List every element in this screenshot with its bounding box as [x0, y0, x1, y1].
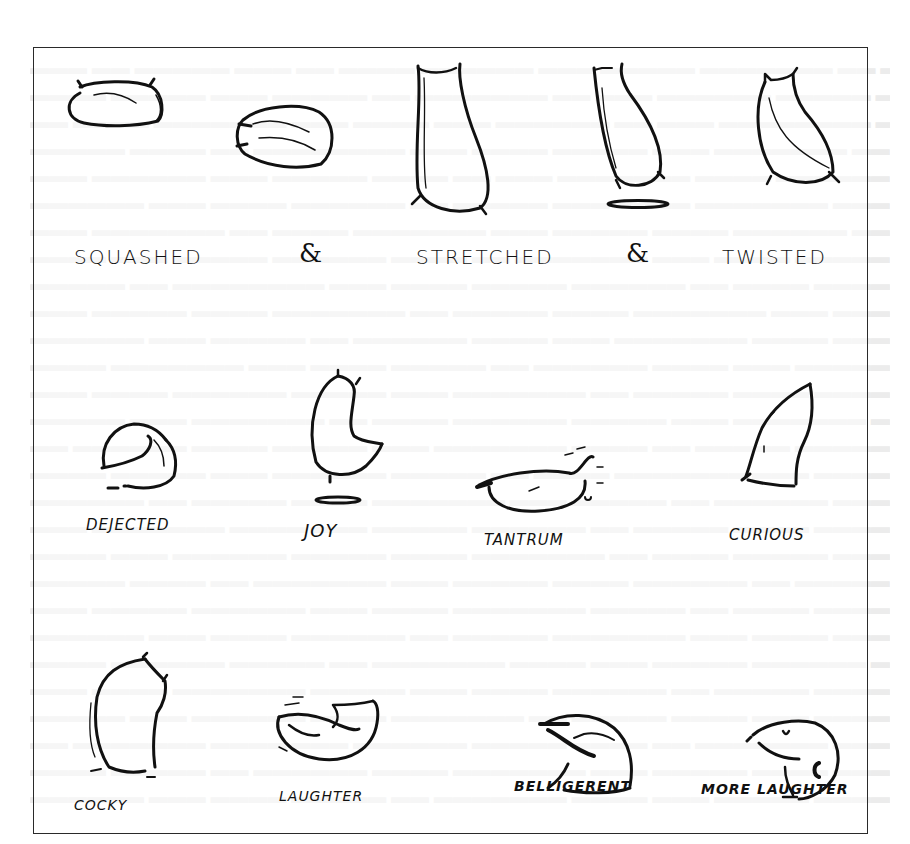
- flour-sack-cocky-icon: [79, 653, 169, 783]
- flour-sack-dejected-icon: [94, 416, 194, 501]
- label-stretched: STRETCHED: [416, 245, 554, 269]
- label-twisted: TWISTED: [722, 245, 827, 269]
- label-tantrum: TANTRUM: [484, 531, 564, 549]
- label-squashed: SQUASHED: [74, 245, 203, 269]
- label-dejected: DEJECTED: [86, 516, 170, 534]
- flour-sack-stretched-icon: [404, 58, 504, 218]
- label-joy: JOY: [304, 520, 337, 541]
- label-laughter: LAUGHTER: [279, 788, 363, 804]
- label-cocky: COCKY: [74, 797, 127, 813]
- flour-sack-stretched-icon: [582, 58, 682, 223]
- flour-sack-tantrum-icon: [469, 443, 609, 518]
- label-ampersand-1: &: [299, 238, 323, 268]
- flour-sack-squashed-icon: [64, 73, 174, 133]
- figure-frame: SQUASHED & STRETCHED & TWISTED: [33, 47, 868, 834]
- flour-sack-laughter-icon: [269, 693, 389, 773]
- label-ampersand-2: &: [626, 238, 650, 268]
- flour-sack-twisted-icon: [749, 68, 849, 198]
- flour-sack-joy-icon: [296, 366, 396, 521]
- label-more-laughter: MORE LAUGHTER: [701, 781, 849, 797]
- flour-sack-squashed-icon: [229, 98, 339, 173]
- label-belligerent: BELLIGERENT: [514, 778, 631, 794]
- label-curious: CURIOUS: [729, 526, 805, 544]
- flour-sack-curious-icon: [734, 376, 824, 501]
